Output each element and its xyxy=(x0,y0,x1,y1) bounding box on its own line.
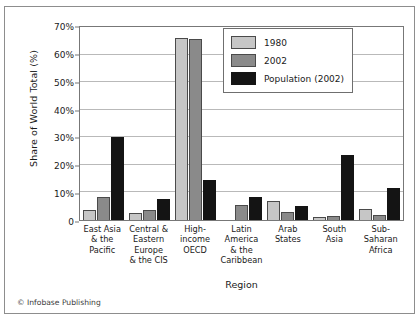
legend-swatch xyxy=(231,36,256,49)
bar xyxy=(175,38,188,220)
legend-label: 2002 xyxy=(264,56,287,66)
bar xyxy=(111,137,124,220)
bar xyxy=(359,209,372,220)
bar-group xyxy=(357,27,403,220)
x-axis-category-label: ArabStates xyxy=(265,224,311,266)
bar xyxy=(203,180,216,220)
y-axis-tick-label: 60% xyxy=(54,50,74,60)
legend: 19802002Population (2002) xyxy=(223,28,353,93)
x-axis-title: Region xyxy=(79,279,404,290)
bar xyxy=(313,217,326,220)
bar-group xyxy=(80,27,126,220)
bar xyxy=(157,199,170,220)
bar xyxy=(143,210,156,220)
bar xyxy=(295,206,308,220)
y-axis-ticks: 010%20%30%40%50%60%70% xyxy=(5,26,79,222)
legend-swatch xyxy=(231,54,256,67)
bar xyxy=(373,215,386,221)
x-axis-category-label: SouthAsia xyxy=(311,224,357,266)
legend-swatch xyxy=(231,72,256,85)
bar-group xyxy=(126,27,172,220)
legend-item: Population (2002) xyxy=(231,71,344,86)
x-axis-category-label: Sub-SaharanAfrica xyxy=(358,224,404,266)
y-axis-tick-mark xyxy=(75,222,79,223)
bar xyxy=(97,197,110,220)
bar xyxy=(83,210,96,220)
x-axis-category-label: East Asia& thePacific xyxy=(79,224,125,266)
x-axis-category-label: Central &EasternEurope& the CIS xyxy=(125,224,171,266)
bar xyxy=(267,201,280,220)
bar-group xyxy=(172,27,218,220)
legend-label: Population (2002) xyxy=(264,74,344,84)
x-axis-category-label: High-incomeOECD xyxy=(172,224,218,266)
figure: Share of World Total (%) 010%20%30%40%50… xyxy=(0,0,420,321)
bar xyxy=(235,205,248,220)
legend-item: 2002 xyxy=(231,53,344,68)
y-axis-tick-label: 40% xyxy=(54,106,74,116)
bar xyxy=(281,212,294,220)
bar xyxy=(327,216,340,220)
bar xyxy=(129,213,142,220)
y-axis-tick-label: 20% xyxy=(54,161,74,171)
bar xyxy=(387,188,400,220)
y-axis-tick-label: 10% xyxy=(54,189,74,199)
y-axis-tick-label: 50% xyxy=(54,78,74,88)
bar xyxy=(189,39,202,220)
legend-item: 1980 xyxy=(231,35,344,50)
legend-label: 1980 xyxy=(264,38,287,48)
copyright-credit: © Infobase Publishing xyxy=(17,298,101,307)
figure-frame: Share of World Total (%) 010%20%30%40%50… xyxy=(4,6,415,314)
x-axis-labels: East Asia& thePacificCentral &EasternEur… xyxy=(79,224,404,266)
y-axis-tick-label: 30% xyxy=(54,133,74,143)
x-axis-category-label: LatinAmerica& theCaribbean xyxy=(218,224,264,266)
bar xyxy=(341,155,354,220)
y-axis-tick-label: 0 xyxy=(68,217,74,227)
y-axis-tick-label: 70% xyxy=(54,22,74,32)
bar xyxy=(249,197,262,220)
